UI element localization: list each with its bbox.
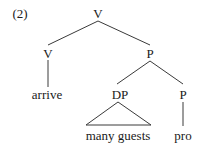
node-v: V: [43, 47, 52, 60]
edge-p-dp: [117, 61, 150, 84]
edge-p-p: [150, 61, 183, 84]
node-root-v: V: [93, 7, 102, 20]
edge-root-v: [48, 21, 98, 45]
node-dp: DP: [112, 88, 129, 101]
node-p-lower: P: [179, 88, 186, 101]
edge-root-p: [98, 21, 150, 45]
dp-triangle: [86, 102, 151, 125]
example-number: (2): [12, 7, 27, 20]
terminal-arrive: arrive: [32, 88, 62, 101]
tree-edges: [0, 0, 199, 149]
terminal-pro: pro: [174, 129, 191, 142]
terminal-many-guests: many guests: [86, 129, 151, 142]
node-p: P: [146, 47, 153, 60]
